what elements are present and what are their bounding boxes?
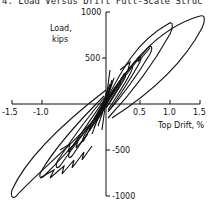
hysteresis-loops <box>11 16 204 198</box>
x-tick-neg1.5: -1.5 <box>2 108 18 117</box>
y-tick-neg1000: -1000 <box>112 192 135 201</box>
x-tick-1.5: 1.5 <box>193 108 206 117</box>
hysteresis-chart: 1000 500 -500 -1000 -1.5 -1.0 0.5 1.0 1.… <box>0 0 221 202</box>
x-tick-neg1.0: -1.0 <box>33 108 49 117</box>
y-tick-500: 500 <box>85 54 100 63</box>
x-tick-1.0: 1.0 <box>163 108 176 117</box>
y-tick-1000: 1000 <box>81 8 101 17</box>
y-axis-label-line2: kips <box>52 35 68 44</box>
x-tick-0.5: 0.5 <box>133 108 146 117</box>
x-axis-label: Top Drift, % <box>157 121 205 130</box>
y-tick-neg500: -500 <box>112 146 130 155</box>
y-axis-label-line1: Load, <box>50 24 72 33</box>
